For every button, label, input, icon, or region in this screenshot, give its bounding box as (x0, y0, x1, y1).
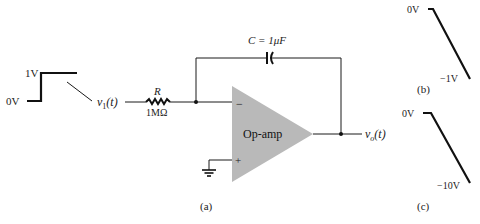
capacitor-label: C = 1μF (248, 34, 286, 46)
output-node-dot (339, 132, 343, 136)
input-step-waveform: 0V 1V (6, 67, 92, 107)
caption-c: (c) (417, 200, 430, 213)
output-waveform-b: 0V −1V (b) (407, 4, 470, 96)
waveform-b-start-label: 0V (407, 4, 420, 15)
waveform-c-start-label: 0V (402, 108, 415, 119)
ground-symbol (202, 160, 232, 176)
waveform-c-end-label: −10V (437, 180, 461, 191)
output-waveform-c: 0V −10V (c) (402, 108, 470, 213)
caption-b: (b) (417, 83, 430, 96)
opamp-label: Op-amp (243, 127, 282, 141)
feedback-wire-left (196, 58, 266, 102)
resistor-symbol (146, 99, 170, 104)
noninverting-input-sign: + (235, 154, 241, 166)
output-signal-label: vo(t) (365, 127, 386, 143)
ramp-line-c (423, 113, 470, 183)
input-signal-arg: (t) (106, 95, 117, 109)
waveform-pointer-line (67, 82, 92, 101)
ramp-line-b (428, 9, 470, 79)
resistor-name-label: R (153, 85, 161, 97)
input-high-label: 1V (25, 67, 39, 79)
resistor-value-label: 1MΩ (146, 107, 167, 118)
waveform-b-end-label: −1V (440, 73, 459, 84)
capacitor-value: C = 1μF (248, 34, 286, 46)
input-signal-label: v1(t) (97, 95, 118, 111)
inverting-input-sign: − (236, 97, 243, 111)
caption-a: (a) (200, 200, 213, 213)
output-signal-arg: (t) (374, 127, 385, 141)
input-low-label: 0V (6, 95, 20, 107)
integrator-circuit-diagram: 0V 1V v1(t) R 1MΩ C = 1μF Op-amp − + vo(… (0, 0, 480, 224)
